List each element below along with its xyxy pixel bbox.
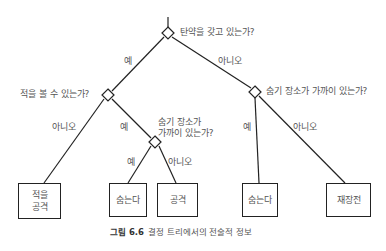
hide-near-right-question: 숨기 장소가 가까이 있는가?	[266, 86, 367, 97]
leaf-attack-label: 공격	[170, 194, 186, 206]
figure-caption-text: 결정 트리에서의 전술적 정보	[148, 227, 252, 237]
edge-label-see-enemy-no: 아니오	[52, 122, 76, 133]
figure-label: 그림 6.6	[110, 227, 144, 237]
leaf-attack-enemy-line2: 공격	[32, 201, 48, 213]
leaf-attack-enemy-line1: 적을	[32, 189, 48, 201]
edge-label-hide-left-yes: 예	[127, 157, 135, 168]
edge-label-see-enemy-yes: 예	[120, 122, 128, 133]
leaf-reload-label: 재장전	[337, 194, 361, 206]
edge-label-hide-left-no: 아니오	[168, 157, 192, 168]
edge-label-root-yes: 예	[124, 56, 132, 67]
leaf-hide-right-label: 숨는다	[248, 194, 272, 206]
leaf-attack-enemy: 적을 공격	[18, 183, 61, 219]
leaf-hide-right: 숨는다	[242, 183, 278, 217]
leaf-reload: 재장전	[326, 183, 371, 217]
edge-label-root-no: 아니오	[218, 56, 242, 67]
root-question: 탄약을 갖고 있는가?	[180, 27, 255, 38]
leaf-attack: 공격	[157, 183, 198, 217]
leaf-hide-left-label: 숨는다	[116, 194, 140, 206]
see-enemy-question: 적을 볼 수 있는가?	[20, 89, 89, 100]
hide-near-left-question-line1: 숨기 장소가	[158, 117, 201, 128]
edge-label-hide-right-no: 아니오	[293, 122, 317, 133]
hide-near-left-question-line2: 가까이 있는가?	[158, 128, 214, 139]
figure-caption: 그림 6.6결정 트리에서의 전술적 정보	[110, 225, 252, 237]
edge-label-hide-right-yes: 예	[243, 122, 251, 133]
leaf-hide-left: 숨는다	[109, 183, 147, 217]
